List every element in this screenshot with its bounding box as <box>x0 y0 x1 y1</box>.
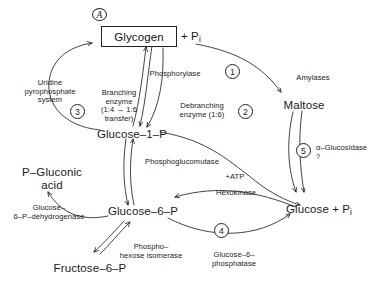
step-4-badge: 4 <box>214 223 229 238</box>
node-glycogen-pi-text: + P <box>181 30 199 42</box>
label-amylases: Amylases <box>285 74 341 83</box>
label-phosphoglucomutase: Phosphoglucomutase <box>136 158 228 167</box>
label-glucose-6-phosphatase: Glucose–6– phosphatase <box>196 251 272 268</box>
arrow-maltose-to-glucose-b <box>289 112 296 192</box>
arrow-g1p-to-g6p <box>124 139 128 205</box>
node-glycogen-label: Glycogen <box>114 31 163 43</box>
label-phosphohexose-isomerase: Phospho– hexose isomerase <box>110 243 192 260</box>
label-g6pd-text: Glucose– 6–P–dehydrogenase <box>14 203 85 221</box>
label-glucose-6-p-dehydrogenase: Glucose– 6–P–dehydrogenase <box>6 204 92 221</box>
node-glucose-1-p: Glucose–1–P <box>90 128 174 141</box>
label-debranching-enzyme: Debranching enzyme (1:6) <box>168 102 236 119</box>
step-5-badge: 5 <box>296 143 311 158</box>
node-p-gluconic-acid: P–Gluconic acid <box>14 166 90 192</box>
step-3-badge: 3 <box>70 104 85 119</box>
label-uridine-pyrophosphate-system: Uridine pyrophosphate system <box>18 79 82 105</box>
label-branching-enzyme: Branching enzyme (1:4 → 1:6 transfer) <box>88 89 150 123</box>
node-glycogen-pi: + Pi <box>181 30 201 44</box>
label-atp: +ATP <box>215 173 255 182</box>
node-glycogen: Glycogen <box>101 26 177 47</box>
panel-tag-a: A <box>92 8 107 21</box>
node-glucose-6-p: Glucose–​6–P <box>100 205 186 218</box>
step-1-badge: 1 <box>225 64 240 79</box>
label-phosphorylase: Phosphorylase <box>140 70 210 79</box>
node-maltose: Maltose <box>276 99 332 112</box>
arrow-g6p-to-g1p <box>130 139 134 205</box>
label-hexokinase: Hexokinase <box>206 189 266 198</box>
label-alpha-glucosidase: α–Glucosidase ? <box>316 144 374 161</box>
node-glucose-pi: Glucose + Pi <box>286 203 352 217</box>
node-glycogen-pi-subscript: i <box>199 35 201 44</box>
arrow-g6-phosphatase <box>168 214 290 233</box>
step-2-badge: 2 <box>238 104 253 119</box>
glycogen-metabolism-diagram: A Glycogen + Pi Uridine pyrophosphate sy… <box>0 0 375 287</box>
node-glucose-pi-text: Glucose + P <box>286 203 350 215</box>
node-fructose-6-p: Fructose–6–P <box>44 262 136 275</box>
node-glucose-pi-subscript: i <box>350 208 352 217</box>
